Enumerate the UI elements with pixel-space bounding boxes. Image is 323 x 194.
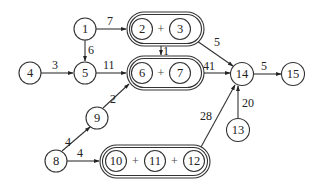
plus-sign: + — [158, 22, 165, 36]
group-10-11-12: 10 + 11 + 12 — [100, 145, 210, 178]
node-9-label: 9 — [94, 111, 100, 125]
weight-5-to-6-7: 11 — [103, 58, 115, 72]
weight-4-to-5: 3 — [52, 58, 58, 72]
node-2-label: 2 — [139, 22, 145, 36]
node-12-label: 12 — [188, 154, 201, 168]
node-13-label: 13 — [232, 123, 245, 137]
node-8-label: 8 — [53, 154, 59, 168]
weight-1-to-2-3: 7 — [107, 14, 113, 28]
node-15-label: 15 — [287, 67, 300, 81]
weight-8-to-10-11-12: 4 — [77, 146, 83, 160]
node-14-label: 14 — [236, 67, 249, 81]
group-6-7: 6 + 7 — [127, 56, 204, 90]
node-4-label: 4 — [27, 66, 34, 80]
weight-1-to-5: 6 — [88, 43, 94, 57]
node-6-label: 6 — [139, 66, 145, 80]
weight-2-3-to-14: 5 — [214, 35, 220, 49]
node-7-label: 7 — [177, 66, 183, 80]
node-1-label: 1 — [82, 22, 88, 36]
weight-10-11-12-to-14: 28 — [200, 109, 212, 123]
node-5-label: 5 — [82, 66, 88, 80]
weight-8-to-9: 4 — [65, 135, 71, 149]
node-10-label: 10 — [110, 154, 123, 168]
weight-9-to-6-7: 2 — [110, 92, 116, 106]
edges — [41, 29, 281, 161]
plus-sign: + — [132, 154, 139, 168]
edge-9-to-6-7 — [103, 84, 129, 108]
group-2-3: 2 + 3 — [127, 12, 204, 46]
node-11-label: 11 — [149, 154, 161, 168]
weight-14-to-15: 5 — [261, 59, 267, 73]
node-3-label: 3 — [177, 22, 183, 36]
weight-6-7-to-14: 41 — [203, 59, 215, 73]
weight-13-to-14: 20 — [242, 96, 254, 110]
plus-sign: + — [158, 66, 165, 80]
plus-sign: + — [171, 154, 178, 168]
graph-diagram: 7 6 3 11 1 5 41 5 2 4 4 28 20 2 + 3 6 + … — [0, 0, 323, 194]
